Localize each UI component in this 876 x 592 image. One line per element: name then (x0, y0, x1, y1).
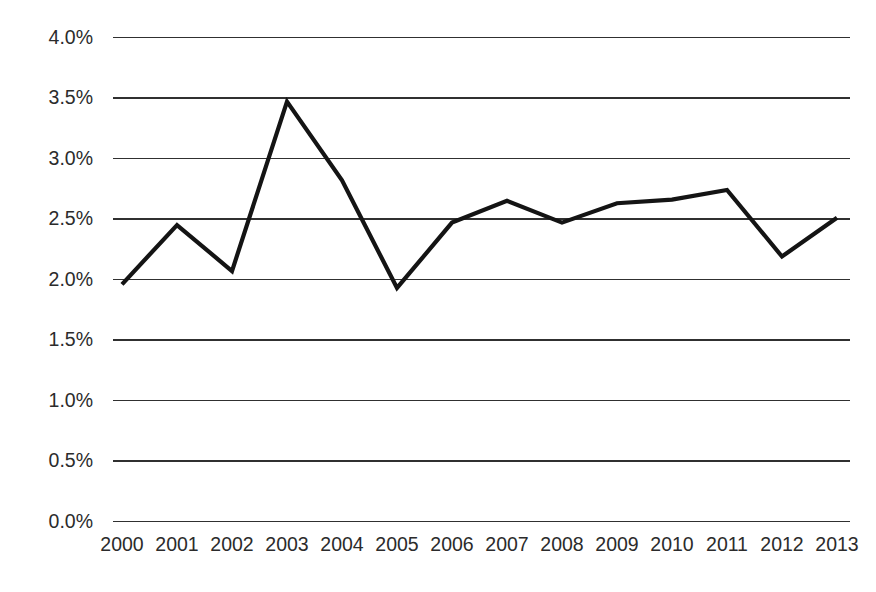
x-tick-label: 2011 (706, 533, 748, 555)
y-tick-label: 3.0% (49, 147, 93, 169)
chart-canvas: 0.0%0.5%1.0%1.5%2.0%2.5%3.0%3.5%4.0% 200… (0, 0, 876, 592)
y-tick-label: 1.5% (49, 328, 93, 350)
y-tick-label: 4.0% (49, 26, 93, 48)
y-tick-label: 2.5% (49, 207, 93, 229)
x-tick-label: 2013 (815, 533, 858, 555)
chart-background (0, 0, 876, 592)
y-axis-tick-labels: 0.0%0.5%1.0%1.5%2.0%2.5%3.0%3.5%4.0% (49, 26, 93, 532)
x-tick-label: 2012 (760, 533, 803, 555)
x-tick-label: 2010 (650, 533, 694, 555)
line-chart: 0.0%0.5%1.0%1.5%2.0%2.5%3.0%3.5%4.0% 200… (0, 0, 876, 592)
x-tick-label: 2002 (210, 533, 253, 555)
x-tick-label: 2000 (100, 533, 144, 555)
x-tick-label: 2006 (430, 533, 473, 555)
x-tick-label: 2007 (485, 533, 528, 555)
x-tick-label: 2008 (540, 533, 583, 555)
x-tick-label: 2005 (375, 533, 419, 555)
x-tick-label: 2004 (320, 533, 364, 555)
y-tick-label: 0.0% (49, 510, 93, 532)
y-tick-label: 3.5% (49, 86, 93, 108)
x-tick-label: 2003 (265, 533, 308, 555)
y-tick-label: 2.0% (49, 268, 93, 290)
x-tick-label: 2001 (155, 533, 198, 555)
y-tick-label: 0.5% (49, 449, 93, 471)
y-tick-label: 1.0% (49, 389, 93, 411)
x-tick-label: 2009 (595, 533, 638, 555)
